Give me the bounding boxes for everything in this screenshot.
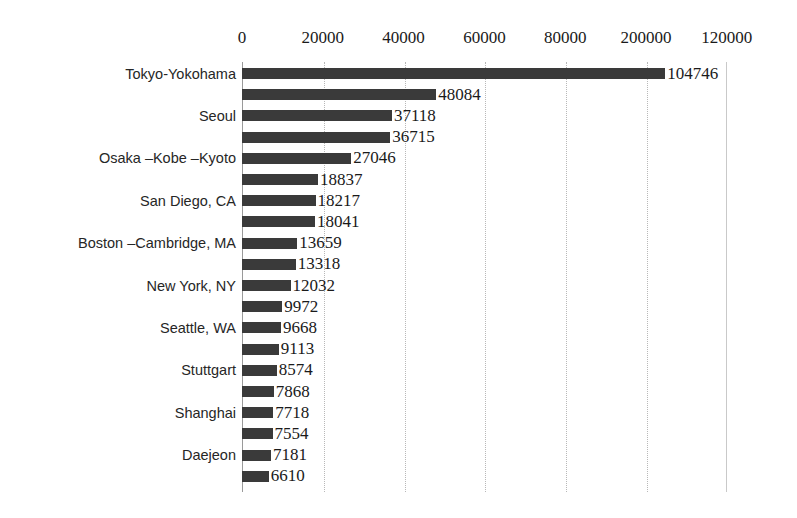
bar-value-label: 7554 [273,425,309,442]
bar [242,153,351,164]
x-axis-tick-6: 120000 [701,28,752,48]
bar-value-label: 7718 [273,404,309,421]
bar [242,386,274,397]
category-label-16: Shanghai [175,405,236,420]
bar [242,216,315,227]
bar [242,110,392,121]
bar [242,301,282,312]
bar [242,450,271,461]
bar [242,428,273,439]
category-label-0: Tokyo-Yokohama [125,66,236,81]
bars-container: 1047464808437118367152704618837182171804… [242,62,797,492]
x-axis-tick-3: 60000 [463,28,506,48]
bar-value-label: 9668 [281,319,317,336]
bar-value-label: 9113 [279,340,314,357]
x-axis-tick-labels: 020000400006000080000200000120000 [0,28,797,50]
category-label-6: San Diego, CA [140,193,236,208]
bar [242,195,316,206]
category-label-8: Boston –Cambridge, MA [78,236,236,251]
bar [242,407,273,418]
bar [242,365,277,376]
x-axis-tick-0: 0 [238,28,247,48]
bar-value-label: 104746 [665,65,718,82]
bar [242,344,279,355]
bar [242,471,269,482]
bar-value-label: 27046 [351,149,396,166]
category-label-10: New York, NY [147,278,236,293]
bar-chart: 020000400006000080000200000120000 Tokyo-… [0,0,797,518]
x-axis-tick-4: 80000 [544,28,587,48]
bar [242,132,390,143]
bar-value-label: 12032 [291,277,336,294]
category-label-4: Osaka –Kobe –Kyoto [99,151,236,166]
bar-value-label: 36715 [390,128,435,145]
category-axis-labels: Tokyo-YokohamaSeoulOsaka –Kobe –KyotoSan… [0,62,236,492]
bar-value-label: 37118 [392,107,436,124]
bar [242,174,318,185]
category-label-14: Stuttgart [181,363,236,378]
bar [242,89,436,100]
x-axis-tick-1: 20000 [302,28,345,48]
x-axis-tick-5: 200000 [621,28,672,48]
category-label-18: Daejeon [182,448,236,463]
bar-value-label: 13659 [297,234,342,251]
bar-value-label: 7868 [274,383,310,400]
category-label-12: Seattle, WA [160,321,236,336]
bar [242,322,281,333]
bar-value-label: 18837 [318,171,363,188]
bar-value-label: 18217 [316,192,361,209]
bar-value-label: 48084 [436,86,481,103]
bar [242,259,296,270]
bar-value-label: 7181 [271,446,307,463]
bar-value-label: 8574 [277,361,313,378]
bar [242,68,665,79]
bar-value-label: 9972 [282,298,318,315]
bar-value-label: 18041 [315,213,360,230]
bar [242,280,291,291]
bar-value-label: 6610 [269,467,305,484]
category-label-2: Seoul [199,109,236,124]
bar [242,238,297,249]
x-axis-tick-2: 40000 [382,28,425,48]
bar-value-label: 13318 [296,255,341,272]
